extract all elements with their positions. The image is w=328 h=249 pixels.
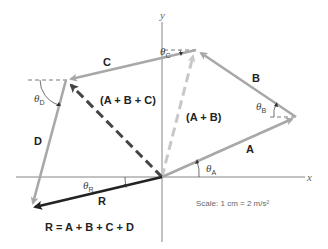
angle-arrowheads <box>56 52 278 188</box>
angle-label-b: θB <box>256 100 266 114</box>
angle-label-r: θR <box>83 179 93 193</box>
angle-arcs <box>40 50 276 186</box>
angle-label-d: θD <box>34 92 44 106</box>
y-axis-label: y <box>159 9 165 21</box>
vector-b <box>201 53 296 117</box>
label-a: A <box>246 143 254 155</box>
vector-addition-diagram: x y A B C D R (A + B) (A + B + C) <box>0 0 328 249</box>
angle-label-a: θA <box>206 162 216 176</box>
vector-c <box>71 50 196 79</box>
label-d: D <box>34 135 42 147</box>
resultant-equation: R = A + B + C + D <box>45 221 134 233</box>
label-a-plus-b: (A + B) <box>186 111 222 123</box>
label-c: C <box>103 56 111 68</box>
scale-text: Scale: 1 cm = 2 m/s² <box>196 199 269 208</box>
label-a-plus-b-plus-c: (A + B + C) <box>100 94 156 106</box>
label-b: B <box>252 72 260 84</box>
label-r: R <box>98 195 106 207</box>
angle-label-c: θC <box>160 45 170 59</box>
x-axis-label: x <box>306 171 312 183</box>
vector-a <box>162 119 292 177</box>
